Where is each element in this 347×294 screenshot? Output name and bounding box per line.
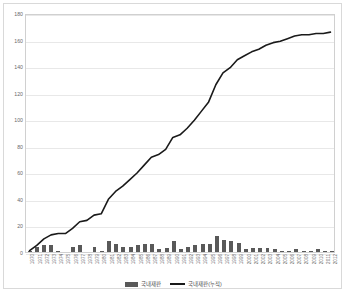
x-axis-tick-label: 1999 [239, 254, 244, 264]
x-axis-tick-label: 2009 [312, 254, 317, 264]
x-axis-tick-label: 2011 [326, 254, 331, 264]
x-axis-tick-label: 1984 [131, 254, 136, 264]
x-axis-tick-label: 1981 [110, 254, 115, 264]
x-axis-tick-label: 1970 [30, 254, 35, 264]
y-axis-tick-label: 180 [14, 11, 23, 17]
legend-bar-swatch-icon [125, 282, 138, 287]
x-axis-tick-label: 1983 [124, 254, 129, 264]
x-axis-tick-label: 2012 [333, 254, 338, 264]
y-axis-tick-label: 60 [17, 170, 23, 176]
x-axis-tick-label: 1992 [189, 254, 194, 264]
x-axis-tick-label: 2000 [247, 254, 252, 264]
line-series [26, 15, 334, 252]
x-axis-tick-label: 2001 [254, 254, 259, 264]
legend-item-line: 국내재판(누적) [170, 280, 222, 288]
y-axis-tick-label: 100 [14, 117, 23, 123]
y-axis-tick-label: 120 [14, 91, 23, 97]
x-axis: 1970197119721973197419751976197719781979… [25, 254, 335, 280]
x-axis-tick-label: 2002 [261, 254, 266, 264]
x-axis-tick-label: 2007 [297, 254, 302, 264]
x-axis-tick-label: 2006 [290, 254, 295, 264]
x-axis-tick-label: 1971 [38, 254, 43, 264]
x-axis-tick-label: 1993 [196, 254, 201, 264]
x-axis-tick-label: 1994 [203, 254, 208, 264]
cumulative-line [30, 32, 331, 251]
y-axis-tick-label: 80 [17, 144, 23, 150]
x-axis-tick-label: 1990 [175, 254, 180, 264]
y-axis-tick-label: 40 [17, 197, 23, 203]
legend-item-bar: 국내재판 [125, 280, 161, 288]
chart-frame: 020406080100120140160180 197019711972197… [3, 3, 342, 289]
x-axis-tick-label: 1995 [211, 254, 216, 264]
x-axis-tick-label: 1973 [52, 254, 57, 264]
y-axis-tick-label: 0 [20, 250, 23, 256]
y-axis: 020406080100120140160180 [4, 4, 25, 256]
x-axis-tick-label: 1988 [160, 254, 165, 264]
y-axis-tick-label: 140 [14, 64, 23, 70]
y-axis-tick-label: 20 [17, 223, 23, 229]
x-axis-tick-label: 1980 [102, 254, 107, 264]
x-axis-tick-label: 2004 [276, 254, 281, 264]
y-axis-tick-label: 160 [14, 38, 23, 44]
x-axis-tick-label: 1977 [81, 254, 86, 264]
x-axis-tick-label: 1979 [95, 254, 100, 264]
legend-label-line: 국내재판(누적) [188, 280, 222, 288]
x-axis-tick-label: 1991 [182, 254, 187, 264]
chart-legend: 국내재판 국내재판(누적) [4, 278, 343, 290]
x-axis-tick-label: 1989 [167, 254, 172, 264]
x-axis-tick-label: 2005 [283, 254, 288, 264]
x-axis-tick-label: 1996 [218, 254, 223, 264]
x-axis-tick-label: 1974 [59, 254, 64, 264]
x-axis-tick-label: 1982 [117, 254, 122, 264]
x-axis-tick-label: 1997 [225, 254, 230, 264]
plot-area [25, 14, 335, 253]
x-axis-tick-label: 1987 [153, 254, 158, 264]
x-axis-tick-label: 2010 [319, 254, 324, 264]
legend-line-swatch-icon [170, 283, 185, 285]
x-axis-tick-label: 2003 [268, 254, 273, 264]
x-axis-tick-label: 1986 [146, 254, 151, 264]
legend-label-bar: 국내재판 [141, 280, 161, 288]
x-axis-tick-label: 1972 [45, 254, 50, 264]
x-axis-tick-label: 1998 [232, 254, 237, 264]
x-axis-tick-label: 1975 [66, 254, 71, 264]
series-layer [26, 15, 334, 252]
x-axis-tick-label: 1976 [74, 254, 79, 264]
x-axis-tick-label: 1978 [88, 254, 93, 264]
x-axis-tick-label: 2008 [304, 254, 309, 264]
x-axis-tick-label: 1985 [139, 254, 144, 264]
